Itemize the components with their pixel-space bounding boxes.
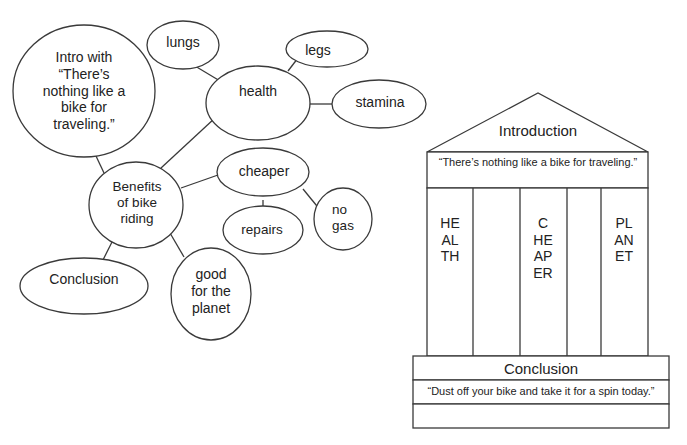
- intro-bubble-label: Intro with “There’s nothing like a bike …: [43, 49, 126, 133]
- repairs-label: repairs: [241, 222, 282, 238]
- pillar-planet: PLANET: [614, 215, 634, 265]
- legs-label: legs: [305, 42, 331, 59]
- nogas-line: gas: [332, 218, 354, 234]
- conclusion-label: Conclusion: [49, 271, 118, 288]
- lungs-label: lungs: [166, 34, 199, 51]
- nogas-label: no gas: [332, 202, 354, 234]
- temple-conclusion-quote: “Dust off your bike and take it for a sp…: [427, 385, 654, 398]
- pillar-health: HEALTH: [440, 215, 460, 265]
- planet-line: for the: [191, 283, 231, 300]
- connector-health-lungs: [195, 66, 220, 81]
- planet-bubble-label: good for the planet: [191, 266, 231, 316]
- temple-base-label: Conclusion: [504, 360, 578, 378]
- temple-base-empty: [413, 404, 669, 428]
- planet-line: planet: [191, 299, 231, 316]
- center-bubble-label: Benefits of bike riding: [113, 179, 162, 228]
- intro-line: Intro with: [43, 49, 126, 66]
- connector-center-health: [161, 118, 215, 168]
- connector-center-planet: [170, 233, 184, 257]
- stamina-label: stamina: [355, 94, 404, 111]
- nogas-line: no: [332, 202, 354, 218]
- center-line: Benefits: [113, 179, 162, 195]
- center-line: of bike: [113, 195, 162, 211]
- temple-intro-quote: “There’s nothing like a bike for traveli…: [439, 156, 638, 169]
- intro-line: traveling.”: [43, 116, 126, 133]
- connector-center-conclusion: [103, 242, 112, 260]
- planet-line: good: [191, 266, 231, 283]
- intro-line: “There’s: [43, 66, 126, 83]
- connector-center-cheaper: [181, 175, 218, 188]
- temple-roof-label: Introduction: [499, 122, 577, 140]
- connector-intro-center: [96, 156, 104, 173]
- health-bubble: [206, 66, 310, 140]
- intro-line: bike for: [43, 99, 126, 116]
- cheaper-label: cheaper: [239, 163, 290, 180]
- center-line: riding: [113, 211, 162, 227]
- health-label: health: [239, 83, 277, 100]
- intro-line: nothing like a: [43, 83, 126, 100]
- pillar-cheaper: CHEAPER: [533, 215, 553, 281]
